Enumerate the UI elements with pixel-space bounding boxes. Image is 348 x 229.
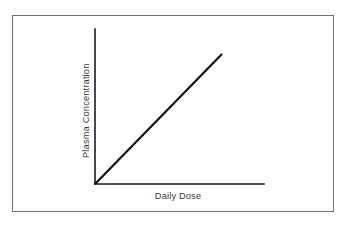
data-line-series-1 xyxy=(95,54,222,184)
y-axis-label: Plasma Concentration xyxy=(82,64,91,158)
x-axis-label: Daily Dose xyxy=(0,192,348,201)
figure-root: Plasma Concentration Daily Dose xyxy=(0,0,348,229)
